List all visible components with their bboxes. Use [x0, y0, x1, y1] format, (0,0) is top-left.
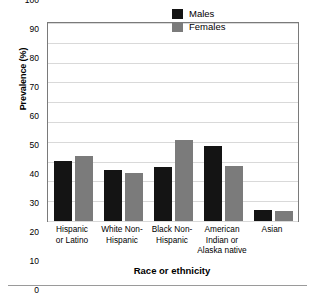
- y-tick-label: 80: [0, 54, 43, 63]
- legend-label-females: Females: [189, 22, 225, 32]
- legend-item-males: Males: [172, 9, 225, 19]
- y-tick-label: 40: [0, 170, 43, 179]
- x-tick-label: Black Non- Hispanic: [147, 224, 197, 266]
- y-tick-label: 30: [0, 199, 43, 208]
- bar-females: [275, 211, 293, 221]
- bar-males: [154, 167, 172, 221]
- chart-legend: Males Females: [172, 9, 225, 32]
- bar-females: [125, 173, 143, 222]
- bar-group: [54, 23, 93, 221]
- y-tick-label: 10: [0, 257, 43, 266]
- legend-label-males: Males: [189, 9, 214, 19]
- bar-males: [54, 161, 72, 221]
- x-tick-label: American Indian or Alaska native: [197, 224, 247, 266]
- x-axis-title: Race or ethnicity: [47, 265, 297, 276]
- y-tick-label: 70: [0, 83, 43, 92]
- bar-males: [204, 146, 222, 221]
- legend-swatch-females: [172, 22, 183, 32]
- x-tick-label: Hispanic or Latino: [47, 224, 97, 266]
- y-tick-label: 60: [0, 112, 43, 121]
- bar-group: [104, 23, 143, 221]
- y-axis-tick-labels: 100 90 80 70 60 50 40 30 20 10 0: [0, 0, 43, 290]
- bar-group: [254, 23, 293, 221]
- bar-males: [254, 210, 272, 221]
- y-tick-label: 0: [0, 286, 43, 295]
- bar-females: [75, 156, 93, 221]
- legend-item-females: Females: [172, 22, 225, 32]
- gridline: [48, 221, 298, 222]
- footer-divider: [8, 285, 307, 286]
- y-tick-label: 20: [0, 228, 43, 237]
- plot-area: [47, 22, 299, 222]
- bar-group: [154, 23, 193, 221]
- bar-females: [225, 166, 243, 221]
- bar-males: [104, 170, 122, 221]
- bar-group: [204, 23, 243, 221]
- bar-groups: [48, 23, 298, 221]
- x-axis-tick-labels: Hispanic or LatinoWhite Non- HispanicBla…: [47, 224, 297, 266]
- x-tick-label: Asian: [247, 224, 297, 266]
- y-tick-label: 90: [0, 25, 43, 34]
- x-tick-label: White Non- Hispanic: [97, 224, 147, 266]
- legend-swatch-males: [172, 9, 183, 19]
- y-tick-label: 50: [0, 141, 43, 150]
- y-tick-label: 100: [0, 0, 43, 4]
- bar-females: [175, 140, 193, 221]
